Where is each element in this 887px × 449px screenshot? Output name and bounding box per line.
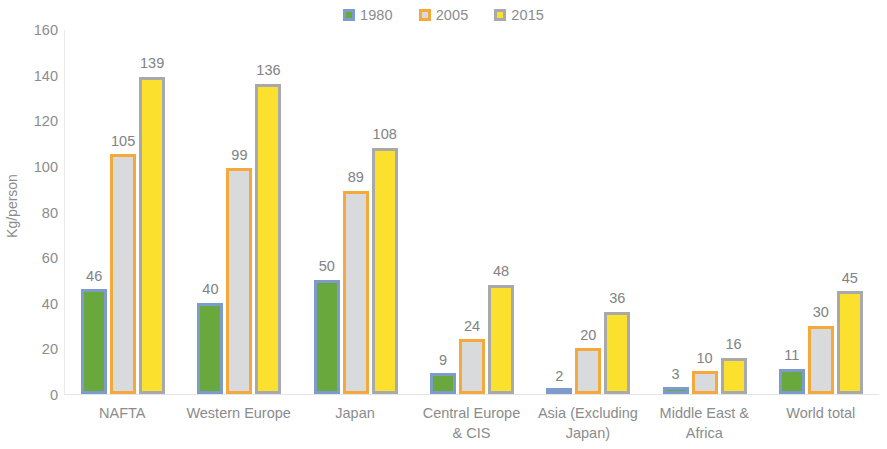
x-axis-label: World total [763, 395, 879, 443]
bar-group: 4099136 [181, 30, 297, 394]
bar-value-label: 99 [231, 148, 247, 163]
bar-2005[interactable] [226, 168, 252, 394]
legend-item-2015[interactable]: 2015 [494, 8, 544, 23]
bar-value-label: 10 [696, 351, 712, 366]
bar-value-label: 46 [86, 269, 102, 284]
x-axis-label: Western Europe [180, 395, 296, 443]
legend-swatch-icon-2015 [494, 9, 506, 21]
bar-slot: 46 [81, 30, 107, 394]
bar-2005[interactable] [575, 348, 601, 394]
bar-groups: 4610513940991365089108924482203631016113… [65, 30, 879, 394]
bar-value-label: 48 [493, 264, 509, 279]
x-axis-label: Japan [297, 395, 413, 443]
bar-value-label: 40 [202, 282, 218, 297]
bar-slot: 2 [546, 30, 572, 394]
y-axis-tick-120: 120 [34, 113, 58, 129]
bar-2015[interactable] [139, 77, 165, 394]
y-axis-tick-20: 20 [42, 341, 58, 357]
bar-slot: 48 [488, 30, 514, 394]
x-axis-label: Asia (Excluding Japan) [530, 395, 646, 443]
bar-slot: 20 [575, 30, 601, 394]
legend-item-2005[interactable]: 2005 [419, 8, 469, 23]
bar-1980[interactable] [779, 369, 805, 394]
legend-swatch-icon-1980 [343, 9, 355, 21]
bar-2005[interactable] [692, 371, 718, 394]
legend-label-2015: 2015 [511, 8, 544, 23]
bar-group: 92448 [414, 30, 530, 394]
legend-item-1980[interactable]: 1980 [343, 8, 393, 23]
bar-slot: 40 [197, 30, 223, 394]
legend-label-2005: 2005 [436, 8, 469, 23]
y-axis-tick-40: 40 [42, 296, 58, 312]
bar-slot: 105 [110, 30, 136, 394]
bar-slot: 11 [779, 30, 805, 394]
bar-1980[interactable] [546, 388, 572, 394]
bar-2015[interactable] [837, 291, 863, 394]
bar-value-label: 24 [464, 319, 480, 334]
y-axis-title-label: Kg/person [4, 174, 20, 238]
bar-value-label: 20 [580, 328, 596, 343]
bar-2015[interactable] [372, 148, 398, 394]
bar-value-label: 89 [348, 170, 364, 185]
bar-group: 113045 [763, 30, 879, 394]
bar-2005[interactable] [808, 326, 834, 394]
bar-2015[interactable] [604, 312, 630, 394]
legend-swatch-icon-2005 [419, 9, 431, 21]
bar-1980[interactable] [430, 373, 456, 394]
plot-column: 4610513940991365089108924482203631016113… [64, 30, 887, 449]
bar-1980[interactable] [197, 303, 223, 394]
bar-group: 22036 [530, 30, 646, 394]
legend-label-1980: 1980 [360, 8, 393, 23]
bar-2015[interactable] [721, 358, 747, 395]
bar-value-label: 36 [609, 291, 625, 306]
bar-2015[interactable] [488, 285, 514, 395]
bar-slot: 9 [430, 30, 456, 394]
y-axis-tick-60: 60 [42, 250, 58, 266]
plot-wrapper: Kg/person 160140120100806040200 46105139… [0, 30, 887, 449]
bar-group: 31016 [646, 30, 762, 394]
bar-value-label: 139 [140, 56, 164, 71]
bar-2005[interactable] [110, 154, 136, 394]
bar-1980[interactable] [81, 289, 107, 394]
bar-value-label: 2 [555, 369, 563, 384]
bar-value-label: 105 [111, 134, 135, 149]
bar-2005[interactable] [459, 339, 485, 394]
bar-value-label: 136 [256, 63, 280, 78]
bar-value-label: 108 [373, 127, 397, 142]
bar-slot: 108 [372, 30, 398, 394]
bar-slot: 136 [255, 30, 281, 394]
bar-1980[interactable] [663, 387, 689, 394]
x-axis-label: Middle East & Africa [646, 395, 762, 443]
bar-value-label: 11 [784, 348, 799, 363]
y-axis: 160140120100806040200 [24, 30, 64, 395]
bar-1980[interactable] [314, 280, 340, 394]
bar-slot: 24 [459, 30, 485, 394]
x-axis-label: Central Europe & CIS [413, 395, 529, 443]
bar-value-label: 3 [672, 367, 680, 382]
bar-slot: 89 [343, 30, 369, 394]
bar-slot: 45 [837, 30, 863, 394]
bar-2015[interactable] [255, 84, 281, 394]
y-axis-tick-100: 100 [34, 159, 58, 175]
bar-slot: 99 [226, 30, 252, 394]
bar-value-label: 9 [439, 353, 447, 368]
y-axis-tick-0: 0 [50, 387, 58, 403]
chart-legend: 198020052015 [0, 0, 887, 30]
plot-area: 4610513940991365089108924482203631016113… [64, 30, 879, 395]
bar-slot: 50 [314, 30, 340, 394]
bar-slot: 30 [808, 30, 834, 394]
x-axis: NAFTAWestern EuropeJapanCentral Europe &… [64, 395, 879, 443]
bar-slot: 36 [604, 30, 630, 394]
bar-value-label: 50 [319, 259, 335, 274]
bar-slot: 10 [692, 30, 718, 394]
y-axis-tick-80: 80 [42, 205, 58, 221]
bar-group: 46105139 [65, 30, 181, 394]
bar-value-label: 16 [725, 337, 741, 352]
bar-2005[interactable] [343, 191, 369, 394]
x-axis-label: NAFTA [64, 395, 180, 443]
bar-value-label: 30 [813, 305, 829, 320]
bar-slot: 139 [139, 30, 165, 394]
bar-slot: 16 [721, 30, 747, 394]
bar-chart: 198020052015 Kg/person 16014012010080604… [0, 0, 887, 449]
y-axis-tick-140: 140 [34, 68, 58, 84]
